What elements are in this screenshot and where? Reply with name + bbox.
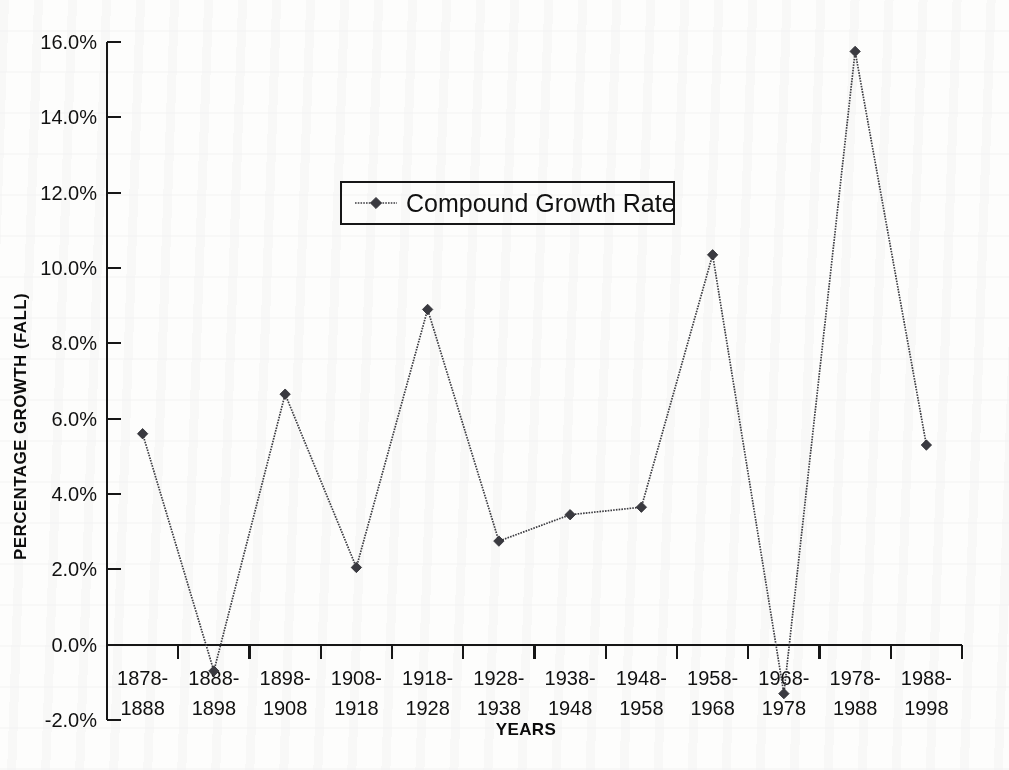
x-axis-ticks — [178, 645, 962, 659]
x-tick-label: 1958- — [687, 667, 738, 689]
data-point-marker — [494, 536, 504, 546]
x-tick-label: 1988 — [833, 697, 878, 719]
x-tick-label: 1968- — [758, 667, 809, 689]
x-tick-label: 1938- — [545, 667, 596, 689]
chart-legend: Compound Growth Rate — [341, 182, 676, 224]
chart-figure: -2.0%0.0%2.0%4.0%6.0%8.0%10.0%12.0%14.0%… — [0, 0, 1009, 770]
y-tick-label: 0.0% — [51, 634, 97, 656]
x-tick-label: 1948- — [616, 667, 667, 689]
data-point-marker — [636, 502, 646, 512]
data-point-marker — [422, 304, 432, 314]
y-tick-label: -2.0% — [45, 709, 97, 731]
x-tick-label: 1898- — [260, 667, 311, 689]
x-tick-label: 1878- — [117, 667, 168, 689]
series-line-path — [143, 51, 927, 693]
y-tick-label: 8.0% — [51, 332, 97, 354]
data-point-marker — [565, 510, 575, 520]
y-tick-label: 14.0% — [40, 106, 97, 128]
x-tick-label: 1938 — [477, 697, 522, 719]
y-tick-label: 4.0% — [51, 483, 97, 505]
x-tick-label: 1888 — [120, 697, 165, 719]
x-tick-label: 1898 — [192, 697, 237, 719]
x-tick-label: 1988- — [901, 667, 952, 689]
data-point-marker — [137, 429, 147, 439]
x-tick-label: 1998 — [904, 697, 949, 719]
data-point-marker — [850, 46, 860, 56]
y-axis-ticks — [107, 42, 121, 720]
y-tick-label: 10.0% — [40, 257, 97, 279]
legend-entry-label: Compound Growth Rate — [406, 189, 676, 217]
x-axis-tick-labels: 1878-18881888-18981898-19081908-19181918… — [117, 667, 952, 719]
x-tick-label: 1948 — [548, 697, 593, 719]
y-axis-tick-labels: -2.0%0.0%2.0%4.0%6.0%8.0%10.0%12.0%14.0%… — [40, 31, 97, 731]
x-tick-label: 1908- — [331, 667, 382, 689]
series-compound-growth-rate — [137, 46, 931, 699]
y-axis-title: PERCENTAGE GROWTH (FALL) — [11, 293, 30, 560]
data-point-marker — [351, 562, 361, 572]
x-tick-label: 1968 — [690, 697, 735, 719]
data-point-marker — [921, 440, 931, 450]
y-tick-label: 2.0% — [51, 558, 97, 580]
x-tick-label: 1978 — [762, 697, 807, 719]
legend-diamond-marker-icon — [370, 197, 381, 208]
x-tick-label: 1958 — [619, 697, 664, 719]
data-point-marker — [280, 389, 290, 399]
x-tick-label: 1918 — [334, 697, 379, 719]
x-tick-label: 1928 — [405, 697, 450, 719]
line-chart-canvas: -2.0%0.0%2.0%4.0%6.0%8.0%10.0%12.0%14.0%… — [0, 0, 1009, 770]
y-tick-label: 6.0% — [51, 408, 97, 430]
x-tick-label: 1978- — [830, 667, 881, 689]
x-tick-label: 1908 — [263, 697, 308, 719]
y-tick-label: 16.0% — [40, 31, 97, 53]
y-tick-label: 12.0% — [40, 182, 97, 204]
series-markers — [137, 46, 931, 699]
data-point-marker — [707, 250, 717, 260]
x-axis-title: YEARS — [496, 720, 557, 739]
x-tick-label: 1928- — [473, 667, 524, 689]
x-tick-label: 1918- — [402, 667, 453, 689]
